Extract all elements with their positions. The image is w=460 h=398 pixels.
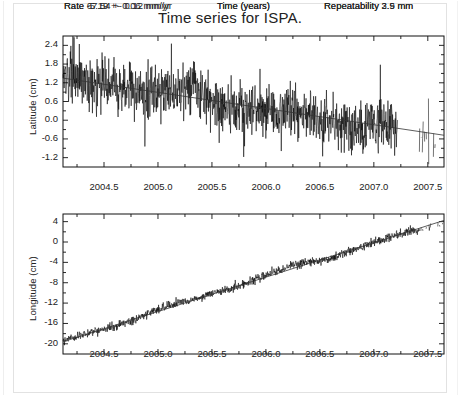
longitude-panel-ytick-label: 4 [18,215,58,226]
latitude-panel-xtick-label: 2005.5 [182,181,242,192]
latitude-panel-ytick-label: 0.0 [18,113,58,124]
latitude-panel-xtick-label: 2005.0 [128,181,188,192]
longitude-panel-xtick-label: 2006.5 [290,348,350,359]
latitude-panel-xtick-label: 2006.0 [236,181,296,192]
latitude-panel-data-series [63,36,444,164]
longitude-repeatability-annotation: Repeatability 3.9 mm [324,0,413,11]
latitude-panel-ytick-label: -0.6 [18,132,58,143]
latitude-panel [62,35,445,168]
figure-container: Time series for ISPA. Rate -5.19 +- 0.06… [0,0,460,398]
longitude-panel-plot [62,213,445,355]
longitude-rate-annotation: Rate 67.54 +- 0.12 mm/yr [64,0,172,11]
latitude-panel-trend-line [63,78,444,135]
latitude-panel-ytick-label: 1.2 [18,76,58,87]
longitude-panel-data-series [63,222,444,345]
latitude-panel-xtick-label: 2004.5 [74,181,134,192]
latitude-panel-ytick-label: 0.6 [18,95,58,106]
latitude-panel-xtick-label: 2007.0 [344,181,404,192]
longitude-panel-xtick-label: 2006.0 [236,348,296,359]
longitude-panel-ytick-label: -8 [18,276,58,287]
latitude-panel-ytick-label: 2.4 [18,38,58,49]
latitude-panel-plot [62,35,445,168]
longitude-panel-xtick-label: 2007.0 [344,348,404,359]
longitude-panel [62,213,445,355]
longitude-panel-ytick-label: -12 [18,296,58,307]
latitude-panel-xtick-label: 2006.5 [290,181,350,192]
longitude-panel-xtick-label: 2005.0 [128,348,188,359]
latitude-panel-ytick-label: -1.2 [18,151,58,162]
longitude-panel-ytick-label: 0 [18,235,58,246]
longitude-panel-xtick-label: 2007.5 [398,348,458,359]
longitude-panel-ytick-label: -16 [18,316,58,327]
latitude-panel-axis-frame [63,36,444,167]
longitude-panel-trend-line [63,220,444,341]
latitude-panel-ytick-label: 1.8 [18,57,58,68]
longitude-panel-xtick-label: 2005.5 [182,348,242,359]
longitude-panel-ytick-label: -20 [18,337,58,348]
longitude-panel-xtick-label: 2004.5 [74,348,134,359]
latitude-panel-xtick-label: 2007.5 [398,181,458,192]
longitude-xaxis-label: Time (years) [217,0,270,11]
page-title: Time series for ISPA. [0,9,460,26]
longitude-panel-ytick-label: -4 [18,255,58,266]
